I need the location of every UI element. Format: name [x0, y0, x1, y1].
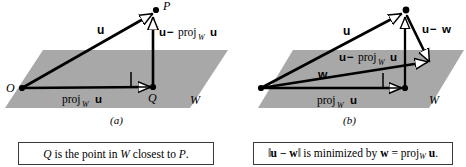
- point-O-dot: [19, 85, 25, 91]
- caption-b-part-4: w: [380, 147, 388, 159]
- u-minus-proj-word: proj: [178, 26, 197, 39]
- u-minus-w-w-part: w: [441, 23, 451, 35]
- b-proj-tail: u: [350, 94, 357, 106]
- proj-word: proj: [62, 93, 81, 106]
- vector-u-label: u: [97, 23, 104, 37]
- panel-a-diagram: O P Q W u u − proj W u proj W u: [0, 0, 233, 115]
- u-minus-proj-u-part: u: [159, 26, 166, 38]
- caption-box-a: Q is the point in W closest to P.: [18, 142, 214, 165]
- foot-dot: [402, 85, 408, 91]
- b-u-minus-proj-minus-part: −: [347, 51, 354, 63]
- caption-b-part-5: = proj: [389, 147, 420, 159]
- point-P-dot: [153, 7, 159, 13]
- caption-b-part-3: is minimized by: [300, 147, 380, 159]
- figure-root: O P Q W u u − proj W u proj W u (a): [0, 0, 466, 167]
- proj-tail: u: [95, 93, 102, 105]
- caption-b-part-7: u: [426, 147, 435, 159]
- panel-b-diagram: W u u − w u − proj W u w proj W: [233, 0, 466, 115]
- caption-b-part-8: .: [435, 147, 438, 159]
- caption-a-part-0: Q: [43, 148, 51, 160]
- u-minus-w-u-part: u: [422, 23, 429, 35]
- caption-a-part-4: P: [179, 148, 186, 160]
- caption-b-text: ‖u − w‖ is minimized by w = projW u.: [268, 147, 438, 161]
- caption-b-part-1: u − w: [271, 147, 298, 159]
- caption-a-part-1: is the point in: [52, 148, 121, 160]
- u-minus-proj-minus-part: −: [167, 26, 174, 38]
- point-Q-label: Q: [148, 91, 157, 105]
- caption-a-part-5: .: [186, 148, 189, 160]
- apex-dot: [403, 7, 410, 14]
- u-minus-proj-sub: W: [198, 33, 206, 42]
- vector-w-label: w: [317, 68, 328, 82]
- panel-a-caption-letter: (a): [0, 114, 233, 126]
- vector-u-minus-proj-label: u − proj W u: [159, 26, 217, 42]
- vector-u-label: u: [343, 24, 350, 38]
- b-proj-word: proj: [317, 94, 336, 107]
- panel-b: W u u − w u − proj W u w proj W: [233, 0, 466, 133]
- b-u-minus-proj-tail: u: [390, 51, 397, 63]
- vector-u-minus-w-label: u − w: [422, 23, 451, 35]
- point-O-label: O: [6, 81, 15, 95]
- plane-w-label: W: [429, 93, 440, 107]
- panel-b-caption-letter: (b): [233, 114, 466, 126]
- origin-dot: [258, 85, 264, 91]
- point-Q-dot: [150, 84, 156, 90]
- panel-a: O P Q W u u − proj W u proj W u (a): [0, 0, 233, 133]
- caption-a-part-2: W: [120, 148, 130, 160]
- point-P-label: P: [162, 0, 171, 13]
- plane-w-label: W: [190, 93, 201, 107]
- u-minus-proj-tail: u: [210, 26, 217, 38]
- u-minus-w-minus-part: −: [430, 23, 437, 35]
- caption-a-part-3: closest to: [130, 148, 179, 160]
- b-u-minus-proj-word: proj: [358, 51, 377, 64]
- b-u-minus-proj-u-part: u: [339, 51, 346, 63]
- caption-a-text: Q is the point in W closest to P.: [43, 148, 188, 160]
- caption-box-b: ‖u − w‖ is minimized by w = projW u.: [253, 142, 453, 165]
- caption-b-part-6: W: [419, 151, 426, 160]
